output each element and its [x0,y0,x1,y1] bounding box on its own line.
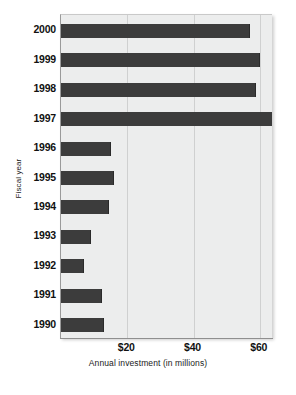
x-axis-line [60,338,273,339]
y-tick-label-1993: 1993 [6,230,56,241]
y-tick-label-2000: 2000 [6,24,56,35]
y-tick-label-1991: 1991 [6,289,56,300]
plot-area [60,14,272,338]
bar-1997 [61,112,272,126]
y-tick-label-1995: 1995 [6,172,56,183]
bar-2000 [61,24,250,38]
bar-1996 [61,142,111,156]
y-tick-label-1998: 1998 [6,83,56,94]
bar-1992 [61,259,84,273]
bar-1991 [61,289,102,303]
y-tick-label-1997: 1997 [6,113,56,124]
bar-1990 [61,318,104,332]
y-tick-label-1992: 1992 [6,260,56,271]
y-tick-label-1999: 1999 [6,54,56,65]
bar-1993 [61,230,91,244]
x-axis-tick-labels: $20$40$60$80 [0,341,296,355]
y-axis-tick-labels: 2000199919981997199619951994199319921991… [6,14,56,338]
x-axis-title: Annual investment (in millions) [0,358,296,368]
x-tick-label-60: $60 [239,341,279,353]
bar-1999 [61,53,260,67]
y-tick-label-1990: 1990 [6,319,56,330]
bar-chart-figure: Fiscal year 2000199919981997199619951994… [0,0,296,395]
y-tick-label-1994: 1994 [6,201,56,212]
gridline-60 [260,15,261,338]
x-tick-label-20: $20 [106,341,146,353]
y-tick-label-1996: 1996 [6,142,56,153]
bar-1995 [61,171,114,185]
bar-1998 [61,83,256,97]
x-tick-label-40: $40 [173,341,213,353]
bar-1994 [61,200,109,214]
